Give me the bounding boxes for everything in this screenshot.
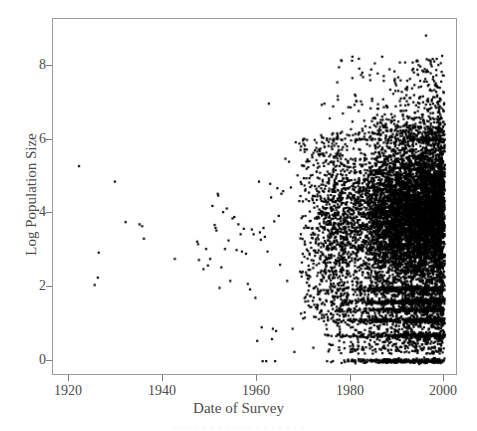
scatter-figure: 1920 1940 1960 1980 2000 0 2 4 6 8 Date … (0, 0, 477, 431)
caption-sliver: · · · · · · · · · · · · · · · · · · (0, 420, 477, 431)
y-tick-2 (46, 286, 52, 287)
x-ticklabel-1940: 1940 (148, 383, 176, 399)
y-tick-0 (46, 360, 52, 361)
x-ticklabel-1980: 1980 (336, 383, 364, 399)
x-ticklabel-2000: 2000 (429, 383, 457, 399)
y-ticklabel-2: 2 (39, 279, 46, 293)
x-tick-1920 (68, 375, 69, 381)
x-axis-label: Date of Survey (0, 400, 477, 417)
x-ticklabel-1920: 1920 (54, 383, 82, 399)
plot-area (52, 18, 457, 375)
x-tick-1940 (162, 375, 163, 381)
y-tick-4 (46, 212, 52, 213)
x-ticklabel-1960: 1960 (242, 383, 270, 399)
y-ticklabel-8: 8 (39, 58, 46, 72)
scatter-points-canvas (53, 19, 456, 374)
y-ticklabel-4: 4 (39, 205, 46, 219)
y-axis-label: Log Population Size (23, 85, 40, 305)
x-tick-1960 (256, 375, 257, 381)
y-tick-6 (46, 139, 52, 140)
y-tick-8 (46, 65, 52, 66)
y-ticklabel-6: 6 (39, 132, 46, 146)
x-tick-2000 (443, 375, 444, 381)
y-ticklabel-0: 0 (39, 353, 46, 367)
x-tick-1980 (350, 375, 351, 381)
